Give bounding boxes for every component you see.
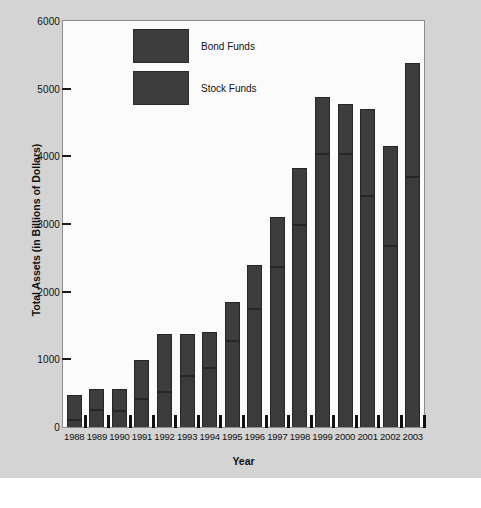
- y-tick-mark: [62, 88, 71, 90]
- bar-segment-stock-1992: [157, 392, 172, 427]
- bar-segment-stock-1988: [67, 420, 82, 427]
- y-tick-mark: [62, 223, 71, 225]
- x-tick-mark: [265, 415, 268, 428]
- bar-segment-bond-2001: [360, 109, 375, 196]
- x-tick-label: 1992: [153, 431, 176, 442]
- x-tick-mark: [355, 415, 358, 428]
- legend-item-stock-funds[interactable]: Stock Funds: [133, 71, 313, 113]
- y-tick-mark: [62, 155, 71, 157]
- x-tick-label: 1999: [311, 431, 334, 442]
- bar-1991[interactable]: [134, 360, 149, 427]
- bar-segment-stock-1994: [202, 368, 217, 427]
- x-tick-mark: [242, 415, 245, 428]
- bar-1997[interactable]: [270, 217, 285, 427]
- legend-label-bond-funds: Bond Funds: [201, 41, 255, 52]
- bar-segment-stock-1996: [247, 309, 262, 427]
- x-tick-mark: [219, 415, 222, 428]
- x-tick-label: 1995: [221, 431, 244, 442]
- bar-segment-bond-1999: [315, 97, 330, 154]
- bar-segment-bond-2000: [338, 104, 353, 155]
- bar-segment-stock-1995: [225, 341, 240, 427]
- x-tick-label: 2001: [356, 431, 379, 442]
- bar-1988[interactable]: [67, 395, 82, 427]
- y-tick-label: 5000: [4, 83, 60, 94]
- bar-segment-bond-1990: [112, 389, 127, 411]
- x-tick-mark: [400, 415, 403, 428]
- bar-2000[interactable]: [338, 104, 353, 427]
- x-tick-label: 2003: [401, 431, 424, 442]
- x-tick-mark: [84, 415, 87, 428]
- x-tick-mark: [174, 415, 177, 428]
- bar-segment-bond-1992: [157, 334, 172, 392]
- x-tick-label: 2002: [379, 431, 402, 442]
- bar-segment-bond-2003: [405, 63, 420, 177]
- bar-2002[interactable]: [383, 146, 398, 427]
- y-tick-label: 6000: [4, 16, 60, 27]
- x-tick-mark: [423, 415, 426, 428]
- bar-segment-stock-2000: [338, 154, 353, 427]
- bar-segment-bond-2002: [383, 146, 398, 246]
- chart-legend: Bond Funds Stock Funds: [133, 29, 313, 113]
- x-tick-label: 1993: [176, 431, 199, 442]
- bar-segment-bond-1998: [292, 168, 307, 226]
- bar-2001[interactable]: [360, 109, 375, 427]
- bar-1993[interactable]: [180, 334, 195, 427]
- bar-segment-stock-1990: [112, 411, 127, 427]
- bar-2003[interactable]: [405, 63, 420, 427]
- bar-segment-bond-1996: [247, 265, 262, 308]
- x-tick-label: 1994: [198, 431, 221, 442]
- bar-1992[interactable]: [157, 334, 172, 427]
- bar-segment-stock-1993: [180, 376, 195, 427]
- x-axis-title: Year: [62, 455, 425, 467]
- x-tick-label: 2000: [334, 431, 357, 442]
- bar-1990[interactable]: [112, 389, 127, 427]
- bar-segment-bond-1997: [270, 217, 285, 267]
- y-tick-label: 2000: [4, 286, 60, 297]
- bar-segment-bond-1993: [180, 334, 195, 376]
- y-tick-label: 0: [4, 422, 60, 433]
- bar-segment-stock-1998: [292, 225, 307, 427]
- y-axis: 0100020003000400050006000: [0, 0, 60, 508]
- x-tick-mark: [152, 415, 155, 428]
- x-tick-mark: [310, 415, 313, 428]
- x-tick-label: 1998: [289, 431, 312, 442]
- bar-1995[interactable]: [225, 302, 240, 427]
- x-tick-label: 1997: [266, 431, 289, 442]
- bar-segment-bond-1994: [202, 332, 217, 368]
- x-tick-label: 1989: [86, 431, 109, 442]
- y-tick-label: 3000: [4, 219, 60, 230]
- bar-1989[interactable]: [89, 389, 104, 427]
- x-tick-mark: [107, 415, 110, 428]
- bar-segment-stock-1997: [270, 267, 285, 427]
- bar-segment-stock-1991: [134, 399, 149, 427]
- bar-1999[interactable]: [315, 97, 330, 427]
- bar-1994[interactable]: [202, 332, 217, 427]
- y-tick-label: 4000: [4, 151, 60, 162]
- chart-figure: Mutual Fund Performance Mutual Fund Perf…: [0, 0, 481, 508]
- bar-1998[interactable]: [292, 168, 307, 427]
- bar-segment-stock-2001: [360, 196, 375, 427]
- legend-item-bond-funds[interactable]: Bond Funds: [133, 29, 313, 71]
- bar-segment-bond-1991: [134, 360, 149, 399]
- x-tick-mark: [129, 415, 132, 428]
- bar-segment-bond-1995: [225, 302, 240, 341]
- x-tick-label: 1991: [131, 431, 154, 442]
- legend-swatch-bond-funds: [133, 29, 189, 63]
- y-tick-label: 1000: [4, 354, 60, 365]
- bar-1996[interactable]: [247, 265, 262, 427]
- bar-segment-bond-1989: [89, 389, 104, 410]
- y-tick-mark: [62, 291, 71, 293]
- x-tick-mark: [377, 415, 380, 428]
- bar-segment-stock-1989: [89, 410, 104, 427]
- legend-label-stock-funds: Stock Funds: [201, 83, 257, 94]
- bar-segment-stock-2002: [383, 246, 398, 427]
- bar-segment-stock-2003: [405, 177, 420, 427]
- x-tick-label: 1996: [244, 431, 267, 442]
- bar-segment-bond-1988: [67, 395, 82, 420]
- y-tick-mark: [62, 358, 71, 360]
- bar-segment-stock-1999: [315, 154, 330, 427]
- x-tick-mark: [287, 415, 290, 428]
- x-tick-mark: [197, 415, 200, 428]
- x-tick-mark: [332, 415, 335, 428]
- legend-swatch-stock-funds: [133, 71, 189, 105]
